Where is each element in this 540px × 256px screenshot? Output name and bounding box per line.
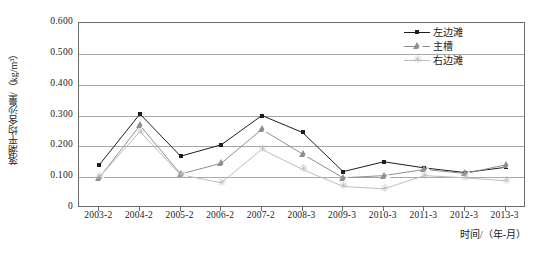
data-point: ✳ bbox=[420, 172, 429, 179]
data-point bbox=[382, 160, 386, 164]
data-point: ✳ bbox=[217, 179, 226, 186]
data-point: ✳ bbox=[339, 182, 348, 189]
chart-legend: 左边滩主槽✳右边滩 bbox=[404, 26, 463, 68]
data-point bbox=[217, 159, 225, 166]
series-line-右边滩 bbox=[99, 132, 505, 189]
data-point: ✳ bbox=[299, 165, 308, 172]
data-point bbox=[301, 130, 305, 134]
x-axis-tick bbox=[261, 207, 262, 211]
data-point bbox=[258, 125, 266, 132]
x-axis-tick bbox=[180, 207, 181, 211]
y-tick-label: 0 bbox=[0, 201, 73, 211]
legend-marker: ✳ bbox=[413, 56, 422, 63]
x-axis-tick bbox=[342, 207, 343, 211]
data-point: ✳ bbox=[258, 145, 267, 152]
data-point bbox=[299, 150, 307, 157]
y-tick-label: 0.200 bbox=[0, 139, 73, 149]
y-tick-label: 0.300 bbox=[0, 109, 73, 119]
legend-item-主槽[interactable]: 主槽 bbox=[404, 40, 463, 54]
gridline bbox=[79, 85, 524, 86]
gridline bbox=[79, 146, 524, 147]
x-axis-tick bbox=[98, 207, 99, 211]
legend-swatch: ✳ bbox=[404, 55, 430, 67]
legend-label: 左边滩 bbox=[433, 26, 463, 40]
legend-label: 右边滩 bbox=[433, 54, 463, 68]
x-axis-tick bbox=[220, 207, 221, 211]
x-axis-tick bbox=[423, 207, 424, 211]
data-point bbox=[138, 112, 142, 116]
data-point: ✳ bbox=[461, 174, 470, 181]
data-point: ✳ bbox=[95, 173, 104, 180]
legend-swatch bbox=[404, 27, 430, 39]
legend-label: 主槽 bbox=[433, 40, 453, 54]
legend-marker bbox=[415, 30, 419, 34]
data-point: ✳ bbox=[136, 128, 145, 135]
x-axis-tick bbox=[505, 207, 506, 211]
legend-marker bbox=[413, 42, 421, 49]
y-tick-label: 0.600 bbox=[0, 16, 73, 26]
x-axis-tick bbox=[139, 207, 140, 211]
x-axis-tick bbox=[383, 207, 384, 211]
data-point: ✳ bbox=[380, 185, 389, 192]
legend-item-左边滩[interactable]: 左边滩 bbox=[404, 26, 463, 40]
gridline bbox=[79, 177, 524, 178]
data-point: ✳ bbox=[177, 171, 186, 178]
y-tick-label: 0.100 bbox=[0, 170, 73, 180]
data-point bbox=[502, 161, 510, 168]
x-axis-tick bbox=[302, 207, 303, 211]
gridline bbox=[79, 116, 524, 117]
x-axis-tick bbox=[464, 207, 465, 211]
data-point: ✳ bbox=[502, 177, 511, 184]
data-point bbox=[260, 114, 264, 118]
data-point bbox=[380, 172, 388, 179]
data-point bbox=[219, 143, 223, 147]
y-tick-label: 0.500 bbox=[0, 47, 73, 57]
x-axis-title: 时间/（年-月） bbox=[460, 226, 526, 241]
y-tick-label: 0.400 bbox=[0, 78, 73, 88]
chart-figure: 落潮平均含沙量/（kg/m³） 0.6000.5000.4000.3000.20… bbox=[0, 0, 540, 256]
legend-item-右边滩[interactable]: ✳右边滩 bbox=[404, 54, 463, 68]
data-point bbox=[179, 154, 183, 158]
x-tick-label: 2013-3 bbox=[481, 210, 529, 220]
legend-swatch bbox=[404, 41, 430, 53]
data-point bbox=[97, 163, 101, 167]
